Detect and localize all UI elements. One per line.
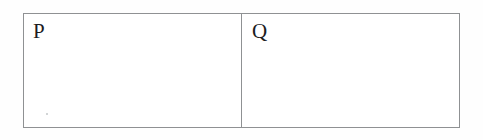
cell-p[interactable]: P bbox=[24, 14, 242, 127]
scan-speck-artifact bbox=[46, 113, 48, 115]
cell-q[interactable]: Q bbox=[242, 14, 459, 127]
cell-p-label: P bbox=[33, 18, 45, 44]
cell-q-label: Q bbox=[252, 18, 267, 44]
page-root: P Q bbox=[0, 0, 483, 140]
two-cell-box: P Q bbox=[23, 13, 460, 128]
